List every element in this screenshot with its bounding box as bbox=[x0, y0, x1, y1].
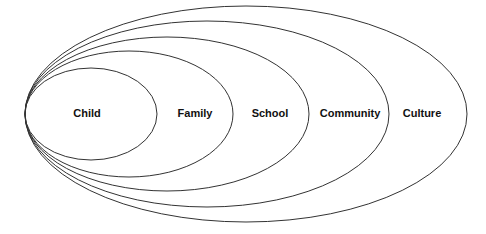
label-community: Community bbox=[320, 107, 381, 119]
nested-ellipse-diagram: Child Family School Community Culture bbox=[0, 0, 486, 234]
label-culture: Culture bbox=[403, 107, 442, 119]
label-school: School bbox=[252, 107, 289, 119]
label-child: Child bbox=[73, 107, 101, 119]
label-family: Family bbox=[178, 107, 213, 119]
